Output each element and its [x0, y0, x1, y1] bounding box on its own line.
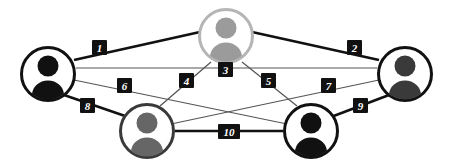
edge-label-3[interactable]: 3: [218, 62, 233, 77]
edge-label-text: 1: [97, 42, 103, 54]
edge-label-text: 3: [222, 64, 229, 76]
person-bottom-right[interactable]: [285, 105, 338, 166]
edge-label-7[interactable]: 7: [321, 78, 336, 93]
edge-label-text: 7: [326, 80, 332, 92]
person-left[interactable]: [22, 48, 75, 110]
edge-label-10[interactable]: 10: [218, 124, 240, 139]
edge-label-text: 5: [266, 75, 272, 87]
edge-label-text: 10: [224, 126, 236, 138]
edge-label-text: 6: [122, 80, 128, 92]
edge-label-6[interactable]: 6: [117, 78, 132, 93]
edge-label-8[interactable]: 8: [80, 98, 95, 113]
person-bottom-left[interactable]: [121, 105, 174, 166]
edge-label-4[interactable]: 4: [179, 73, 194, 88]
graph-svg: 1 2 3 4 5 6: [0, 0, 453, 165]
edge-label-9[interactable]: 9: [353, 98, 368, 113]
person-right[interactable]: [379, 48, 432, 110]
edge-label-text: 4: [183, 75, 190, 87]
graph-canvas: 1 2 3 4 5 6: [0, 0, 453, 165]
edge-label-2[interactable]: 2: [347, 40, 362, 55]
edge-label-1[interactable]: 1: [92, 40, 107, 55]
edge-label-5[interactable]: 5: [261, 73, 276, 88]
edge-label-text: 8: [85, 100, 91, 112]
edge-line-left-bottomleft[interactable]: [64, 95, 128, 117]
edge-label-text: 2: [351, 42, 358, 54]
edge-label-text: 9: [358, 100, 364, 112]
